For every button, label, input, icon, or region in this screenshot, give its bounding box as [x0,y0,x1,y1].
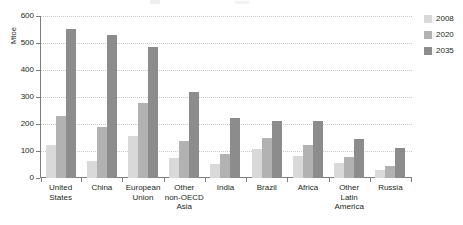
x-axis-tick [205,178,206,182]
bar-chart: Mtoe 0100200300400500600 United StatesCh… [0,0,463,225]
bar-2035 [272,121,282,178]
bar-2008 [169,158,179,178]
bar-group [288,16,329,178]
bar-group-bars [375,16,405,178]
legend-item[interactable]: 2035 [424,43,463,59]
y-axis-tick-label: 400 [4,66,34,74]
y-axis-tick [36,97,40,98]
chart-legend: 200820202035 [424,11,463,59]
y-axis-tick [36,43,40,44]
y-axis-tick-label: 500 [4,39,34,47]
bar-2020 [262,138,272,178]
y-axis-tick [36,124,40,125]
legend-label: 2020 [436,31,454,39]
y-axis-title: Mtoe [9,14,18,58]
y-axis-tick [36,16,40,17]
x-axis-tick [411,178,412,182]
bar-group [330,16,371,178]
bar-2008 [210,164,220,178]
x-axis-tick [122,178,123,182]
bar-group-bars [169,16,199,178]
x-axis-tick [370,178,371,182]
bar-2020 [179,141,189,178]
legend-label: 2008 [436,15,454,23]
bar-2008 [375,170,385,178]
x-axis-tick [246,178,247,182]
x-axis-labels: United StatesChinaEuropean UnionOther no… [40,183,412,225]
bar-2035 [148,47,158,178]
bar-group [165,16,206,178]
bar-2008 [128,136,138,178]
bar-2035 [66,29,76,178]
y-axis-tick [36,178,40,179]
legend-label: 2035 [436,47,454,55]
bar-2008 [46,145,56,178]
bar-2035 [107,35,117,178]
bar-group-bars [334,16,364,178]
x-axis-tick [329,178,330,182]
plot-area: 0100200300400500600 [40,16,412,178]
x-axis-tick [164,178,165,182]
bar-2020 [56,116,66,178]
legend-item[interactable]: 2008 [424,11,463,27]
bar-groups [41,16,412,178]
bar-2035 [230,118,240,178]
x-axis-tick [41,178,42,182]
bar-group-bars [128,16,158,178]
bar-2020 [303,145,313,178]
bar-2020 [344,157,354,178]
x-axis-tick [81,178,82,182]
legend-swatch-icon [424,47,432,55]
y-axis-tick [36,151,40,152]
bar-group-bars [252,16,282,178]
bar-2035 [189,92,199,178]
bar-group [82,16,123,178]
bar-2008 [334,163,344,178]
bar-group-bars [46,16,76,178]
bar-2020 [385,166,395,178]
legend-swatch-icon [424,15,432,23]
bar-group [41,16,82,178]
x-axis-label: Russia [364,183,417,193]
bar-group [247,16,288,178]
y-axis-tick-label: 600 [4,12,34,20]
bar-group [123,16,164,178]
bar-2035 [395,148,405,178]
y-axis-tick-label: 300 [4,93,34,101]
bar-2008 [87,161,97,178]
bar-2020 [138,103,148,178]
bar-group-bars [87,16,117,178]
x-axis-tick [287,178,288,182]
bar-2020 [220,154,230,178]
y-axis-tick [36,70,40,71]
bar-group [371,16,412,178]
bar-group-bars [210,16,240,178]
scan-artifact-strip [0,0,463,5]
y-axis-tick-label: 100 [4,147,34,155]
bar-2035 [354,139,364,178]
y-axis-tick-label: 200 [4,120,34,128]
bar-2035 [313,121,323,178]
bar-2008 [293,156,303,178]
bar-2020 [97,127,107,178]
bar-2008 [252,149,262,178]
bar-group-bars [293,16,323,178]
bar-group [206,16,247,178]
y-axis-tick-label: 0 [4,174,34,182]
legend-swatch-icon [424,31,432,39]
legend-item[interactable]: 2020 [424,27,463,43]
